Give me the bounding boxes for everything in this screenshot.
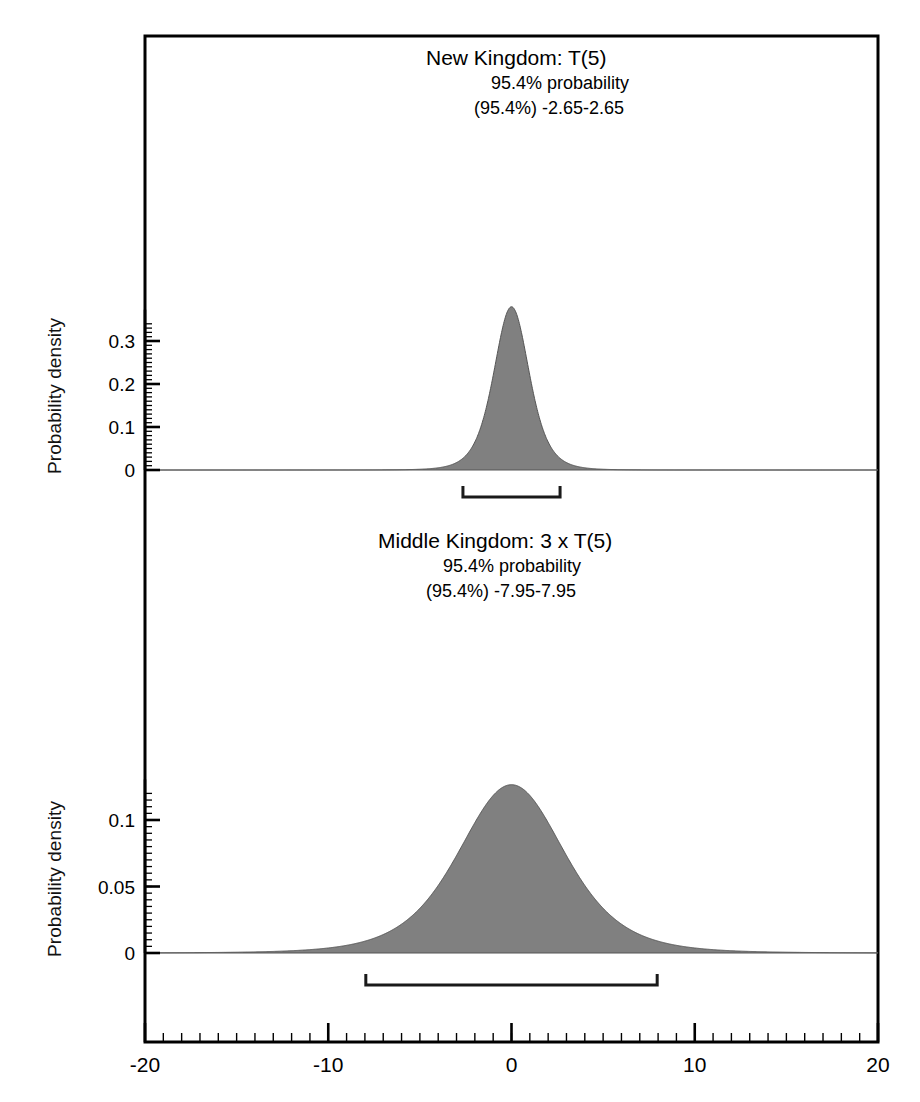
panel-title-main-bottom: Middle Kingdom: 3 x T(5) — [145, 527, 878, 554]
panel-title-new-kingdom: New Kingdom: T(5) 95.4% probability (95.… — [145, 44, 878, 121]
x-tick-label: -20 — [130, 1053, 160, 1076]
panel-title-middle-kingdom: Middle Kingdom: 3 x T(5) 95.4% probabili… — [145, 527, 878, 604]
y-tick-label: 0.1 — [109, 810, 135, 831]
panel-title-line3-top: (95.4%) -2.65-2.65 — [145, 96, 878, 121]
y-tick-label: 0 — [124, 943, 135, 964]
x-tick-label: 0 — [506, 1053, 518, 1076]
x-tick-label: 20 — [866, 1053, 889, 1076]
y-tick-label: 0.05 — [98, 877, 135, 898]
y-tick-label: 0.2 — [109, 374, 135, 395]
x-tick-label: -10 — [313, 1053, 343, 1076]
y-tick-label: 0.1 — [109, 417, 135, 438]
y-axis-label-bottom: Probability density — [44, 801, 66, 957]
panel-title-main-top: New Kingdom: T(5) — [145, 44, 878, 71]
chart-canvas: 00.10.20.300.050.1-20-1001020 Probabilit… — [0, 0, 920, 1102]
y-tick-label: 0 — [124, 460, 135, 481]
panel-title-line2-top: 95.4% probability — [145, 71, 878, 96]
y-axis-label-top: Probability density — [44, 318, 66, 474]
panel-title-line2-bottom: 95.4% probability — [145, 554, 878, 579]
y-tick-label: 0.3 — [109, 331, 135, 352]
x-tick-label: 10 — [683, 1053, 706, 1076]
density-curves — [145, 307, 878, 953]
panel-title-line3-bottom: (95.4%) -7.95-7.95 — [145, 579, 878, 604]
